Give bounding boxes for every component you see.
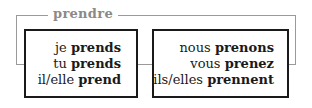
- conjugation-row: nous prenons: [180, 40, 275, 56]
- verb-form: prenons: [215, 40, 274, 55]
- pronoun: nous: [180, 40, 211, 55]
- pronoun: ils/elles: [153, 72, 203, 87]
- bracket-left-line: [16, 15, 17, 64]
- verb-form: prends: [71, 56, 121, 71]
- conjugation-row: tu prends: [53, 56, 121, 72]
- pronoun: vous: [190, 56, 220, 71]
- pronoun: tu: [53, 56, 67, 71]
- conjugation-row: vous prenez: [190, 56, 274, 72]
- bracket-right-line: [295, 15, 296, 64]
- pronoun: il/elle: [38, 72, 74, 87]
- verb-form: prend: [78, 72, 121, 87]
- pronoun: je: [55, 40, 67, 55]
- verb-title: prendre: [48, 5, 118, 23]
- verb-form: prennent: [207, 72, 274, 87]
- bracket-left-stub: [16, 64, 24, 65]
- verb-form: prends: [71, 40, 121, 55]
- bracket-right-stub: [288, 64, 296, 65]
- conjugation-row: il/elle prend: [38, 72, 121, 88]
- conjugation-row: ils/elles prennent: [153, 72, 274, 88]
- conjugation-row: je prends: [55, 40, 121, 56]
- singular-conjugation-box: je prends tu prends il/elle prend: [24, 29, 138, 98]
- box-connector-line: [137, 64, 152, 65]
- plural-conjugation-box: nous prenons vous prenez ils/elles prenn…: [152, 29, 289, 98]
- verb-form: prenez: [225, 56, 274, 71]
